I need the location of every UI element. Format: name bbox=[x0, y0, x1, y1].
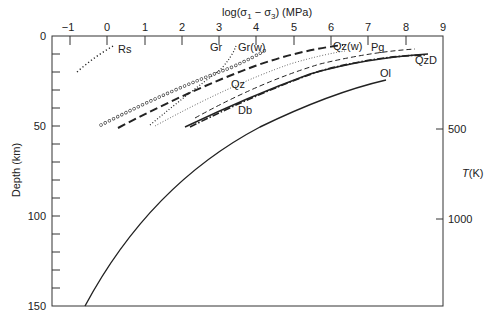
label-rs: Rs bbox=[118, 43, 132, 55]
svg-text:4: 4 bbox=[253, 21, 259, 33]
svg-text:0: 0 bbox=[40, 30, 46, 42]
label-pg: Pg bbox=[371, 41, 384, 53]
svg-text:−1: −1 bbox=[62, 21, 75, 33]
curve-db bbox=[190, 55, 425, 127]
top-axis-tick-labels: −1 0 1 2 3 4 5 6 7 8 9 bbox=[62, 21, 446, 33]
svg-text:3: 3 bbox=[216, 21, 222, 33]
label-db: Db bbox=[238, 104, 252, 116]
curves bbox=[77, 45, 428, 306]
svg-text:8: 8 bbox=[403, 21, 409, 33]
svg-text:6: 6 bbox=[328, 21, 334, 33]
label-qz: Qz bbox=[231, 78, 245, 90]
curve-rs bbox=[77, 45, 115, 72]
right-axis-title: T(K) bbox=[462, 167, 483, 179]
svg-text:7: 7 bbox=[365, 21, 371, 33]
svg-text:1: 1 bbox=[142, 21, 148, 33]
label-gr-w: Gr(w) bbox=[238, 41, 266, 53]
left-axis-tick-labels: 0 50 100 150 bbox=[28, 30, 46, 312]
label-qzd: QzD bbox=[415, 54, 437, 66]
label-ol: Ol bbox=[380, 67, 391, 79]
svg-text:150: 150 bbox=[28, 300, 46, 312]
svg-text:5: 5 bbox=[291, 21, 297, 33]
svg-text:100: 100 bbox=[28, 210, 46, 222]
curve-gr bbox=[150, 46, 236, 125]
svg-text:2: 2 bbox=[179, 21, 185, 33]
curve-ol bbox=[85, 80, 386, 306]
curve-qzd bbox=[185, 54, 428, 127]
chart-canvas: log(σ1 − σ3) (MPa) −1 0 1 2 3 4 5 6 7 8 … bbox=[0, 0, 490, 318]
label-qz-w: Qz(w) bbox=[333, 40, 362, 52]
left-axis-title: Depth (km) bbox=[10, 143, 22, 197]
left-axis-ticks bbox=[52, 54, 60, 288]
svg-text:9: 9 bbox=[440, 21, 446, 33]
svg-text:50: 50 bbox=[34, 120, 46, 132]
svg-text:0: 0 bbox=[104, 21, 110, 33]
top-axis-title: log(σ1 − σ3) (MPa) bbox=[222, 6, 312, 21]
svg-text:500: 500 bbox=[448, 123, 466, 135]
right-axis-ticks bbox=[436, 129, 443, 219]
svg-text:1000: 1000 bbox=[448, 213, 472, 225]
label-gr: Gr bbox=[210, 41, 223, 53]
